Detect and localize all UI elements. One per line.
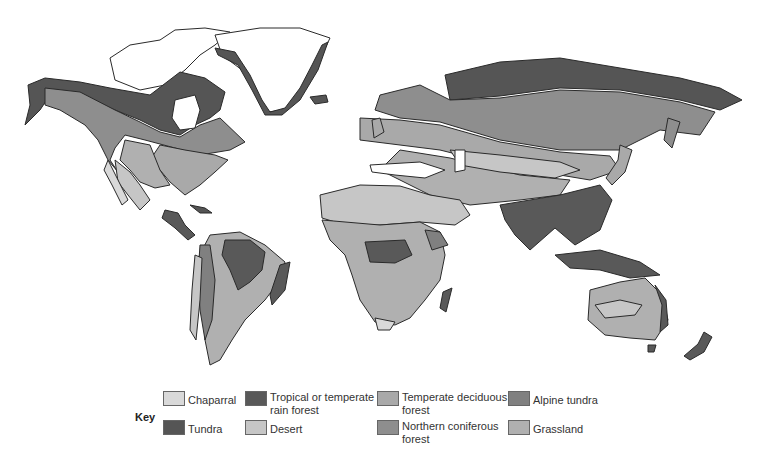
iceland	[310, 95, 328, 104]
coniferous-forest-swatch	[377, 420, 399, 435]
west-coast-desert	[190, 255, 202, 340]
grassland-swatch	[508, 420, 530, 435]
legend-item-desert: Desert	[245, 420, 380, 436]
new-zealand	[684, 332, 712, 360]
indonesia-rainforest	[555, 250, 660, 278]
legend-title: Key	[135, 411, 155, 423]
legend-label: Temperate deciduous forest	[402, 391, 512, 417]
alpine-tundra-swatch	[508, 391, 530, 406]
deciduous-forest-swatch	[377, 391, 399, 406]
desert-swatch	[245, 420, 267, 435]
tasmania	[648, 345, 656, 352]
rain-forest-swatch	[245, 391, 267, 406]
legend-item-temperate-deciduous-forest: Temperate deciduous forest	[377, 391, 512, 417]
legend-label: Alpine tundra	[533, 391, 643, 407]
hudson-bay	[172, 95, 200, 130]
tundra-swatch	[163, 420, 185, 435]
legend-label: Northern coniferous forest	[402, 420, 512, 446]
legend-label: Tropical or temperate rain forest	[270, 391, 380, 417]
biome-world-map	[0, 0, 758, 380]
legend-label: Grassland	[533, 420, 643, 436]
legend-item-rain-forest: Tropical or temperate rain forest	[245, 391, 380, 417]
chaparral-swatch	[163, 391, 185, 406]
madagascar	[440, 288, 452, 312]
caspian-sea	[455, 150, 465, 172]
central-america-rainforest	[162, 210, 195, 240]
legend-item-grassland: Grassland	[508, 420, 643, 436]
legend-item-northern-coniferous-forest: Northern coniferous forest	[377, 420, 512, 446]
legend-item-alpine-tundra: Alpine tundra	[508, 391, 643, 407]
legend-label: Desert	[270, 420, 380, 436]
caribbean-islands	[190, 205, 212, 213]
